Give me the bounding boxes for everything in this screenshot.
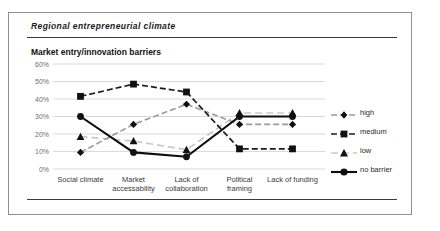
- legend-label-high: high: [360, 108, 374, 117]
- data-point-square: [130, 81, 137, 88]
- legend-item-no-barrier[interactable]: no barrier: [331, 162, 411, 177]
- series-line: [81, 113, 293, 150]
- data-point-circle: [236, 113, 243, 120]
- figure-container: Regional entrepreneurial climate Market …: [8, 12, 412, 215]
- legend-swatch-no-barrier: [331, 164, 357, 176]
- data-point-square: [77, 93, 84, 100]
- data-point-diamond: [130, 121, 137, 128]
- y-axis-tick-label: 50%: [35, 78, 49, 85]
- bottom-divider: [27, 199, 397, 200]
- figure-caption: [8, 219, 438, 228]
- y-axis-tick-label: 0%: [39, 166, 49, 173]
- series-line: [81, 104, 293, 152]
- legend-label-medium: medium: [360, 127, 387, 136]
- chart-legend: high medium low: [331, 105, 411, 181]
- y-axis-tick-labels: 0%10%20%30%40%50%60%: [35, 61, 49, 173]
- series-no-barrier: [77, 113, 296, 160]
- y-axis-tick-label: 40%: [35, 96, 49, 103]
- x-axis-tick-label: collaboration: [165, 184, 208, 193]
- legend-label-low: low: [360, 146, 371, 155]
- y-axis-tick-label: 10%: [35, 148, 49, 155]
- legend-item-medium[interactable]: medium: [331, 124, 411, 139]
- legend-item-low[interactable]: low: [331, 143, 411, 158]
- x-axis-tick-label: Lack of funding: [267, 175, 318, 184]
- x-axis-tick-label: Political: [227, 175, 253, 184]
- data-point-square: [236, 145, 243, 152]
- data-point-circle: [77, 113, 84, 120]
- x-axis-tick-label: accessability: [112, 184, 155, 193]
- x-axis-tick-labels: Social climateMarketaccessabilityLack of…: [57, 175, 318, 193]
- y-axis-tick-label: 30%: [35, 113, 49, 120]
- y-axis-tick-label: 60%: [35, 61, 49, 68]
- legend-item-high[interactable]: high: [331, 105, 411, 120]
- data-point-circle: [130, 149, 137, 156]
- data-point-square: [183, 89, 190, 96]
- data-point-square: [289, 145, 296, 152]
- x-axis-tick-label: Market: [122, 175, 146, 184]
- data-point-circle: [183, 153, 190, 160]
- data-series-layer: [77, 81, 297, 160]
- data-point-diamond: [289, 121, 296, 128]
- data-point-diamond: [236, 121, 243, 128]
- x-axis-tick-label: Lack of: [174, 175, 199, 184]
- legend-swatch-medium: [331, 126, 357, 138]
- legend-swatch-high: [331, 107, 357, 119]
- y-axis-tick-label: 20%: [35, 131, 49, 138]
- legend-swatch-low: [331, 145, 357, 157]
- data-point-diamond: [183, 101, 190, 108]
- x-axis-tick-label: framing: [227, 184, 252, 193]
- data-point-diamond: [77, 149, 84, 156]
- data-point-circle: [289, 113, 296, 120]
- x-axis-tick-label: Social climate: [57, 175, 103, 184]
- legend-label-no-barrier: no barrier: [360, 165, 392, 174]
